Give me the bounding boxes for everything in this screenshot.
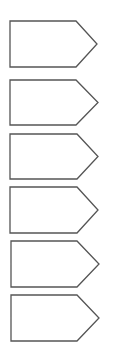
pentagon-arrow-outline	[10, 21, 97, 67]
pentagon-arrow-outline	[11, 295, 99, 341]
pentagon-arrow-outline	[10, 80, 98, 125]
arrow-shape	[10, 134, 98, 179]
arrow-diagram	[0, 0, 133, 352]
arrow-shape	[11, 295, 99, 341]
arrow-shape	[11, 241, 99, 287]
pentagon-arrow-outline	[10, 134, 98, 179]
arrow-shape	[10, 21, 97, 67]
pentagon-arrow-outline	[10, 187, 98, 233]
pentagon-arrow-outline	[11, 241, 99, 287]
arrow-shape	[10, 80, 98, 125]
arrow-shape	[10, 187, 98, 233]
